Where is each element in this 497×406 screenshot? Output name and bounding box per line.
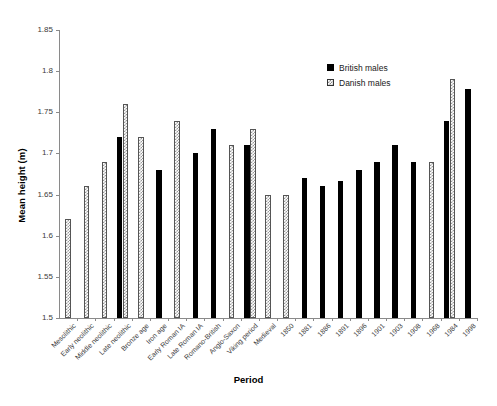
bar (102, 162, 108, 318)
legend-item-label: Danish males (339, 78, 391, 88)
x-axis-tick-mark (295, 318, 296, 321)
legend-item: British males (327, 60, 452, 75)
bar (211, 129, 217, 318)
bar (392, 145, 398, 318)
bar (320, 186, 326, 318)
x-axis-tick-mark (204, 318, 205, 321)
legend-swatch-icon (327, 79, 334, 86)
y-axis-tick-mark (56, 71, 59, 72)
y-axis-tick-mark (56, 277, 59, 278)
x-axis-tick-mark (459, 318, 460, 321)
bar (429, 162, 435, 318)
x-axis-tick-mark (132, 318, 133, 321)
y-axis-tick-label: 1.7 (21, 149, 53, 157)
y-axis-tick-mark (56, 30, 59, 31)
x-axis-tick-label: 1896 (352, 322, 368, 338)
y-axis-line (59, 30, 60, 318)
bar (302, 178, 308, 318)
x-axis-tick-mark (422, 318, 423, 321)
bar (138, 137, 144, 318)
y-axis-title-label: Mean height (m) (16, 148, 27, 222)
bar (283, 195, 289, 318)
x-axis-tick-mark (477, 318, 478, 321)
bar (338, 181, 344, 318)
chart-legend: British malesDanish males (327, 60, 452, 90)
y-axis-tick-mark (56, 195, 59, 196)
x-axis-tick-label: 1998 (461, 322, 477, 338)
bar (193, 153, 199, 318)
y-axis-tick-mark (56, 236, 59, 237)
bar (374, 162, 380, 318)
bar (250, 129, 256, 318)
x-axis-tick-label: 1891 (334, 322, 350, 338)
bar (465, 89, 471, 318)
y-axis-tick-label: 1.55 (21, 273, 53, 281)
x-axis-tick-label: 1850 (279, 322, 295, 338)
y-axis-tick-label: 1.6 (21, 232, 53, 240)
bar-chart: Mean height (m) 1.51.551.61.651.71.751.8… (0, 0, 497, 406)
bar (265, 195, 271, 318)
y-axis-tick-label: 1.5 (21, 314, 53, 322)
x-axis-tick-label: 1984 (443, 322, 459, 338)
bar (444, 121, 450, 318)
y-axis-tick-label: 1.65 (21, 191, 53, 199)
bar (229, 145, 235, 318)
legend-swatch-icon (327, 64, 334, 71)
x-axis-tick-mark (332, 318, 333, 321)
bar (411, 162, 417, 318)
x-axis-tick-label: 1903 (388, 322, 404, 338)
x-axis-tick-label: 1886 (316, 322, 332, 338)
x-axis-tick-mark (114, 318, 115, 321)
x-axis-tick-mark (95, 318, 96, 321)
legend-item-label: British males (339, 63, 388, 73)
x-axis-tick-label: 1901 (370, 322, 386, 338)
y-axis-title: Mean height (m) (10, 130, 32, 240)
x-axis-tick-mark (441, 318, 442, 321)
x-axis-tick-mark (77, 318, 78, 321)
x-axis-tick-mark (150, 318, 151, 321)
x-axis-tick-mark (368, 318, 369, 321)
bar (84, 186, 90, 318)
bar (450, 79, 456, 318)
y-axis-tick-mark (56, 153, 59, 154)
y-axis-tick-label: 1.85 (21, 26, 53, 34)
y-axis-tick-mark (56, 112, 59, 113)
x-axis-tick-mark (241, 318, 242, 321)
x-axis-tick-mark (223, 318, 224, 321)
x-axis-tick-mark (186, 318, 187, 321)
x-axis-tick-mark (404, 318, 405, 321)
x-axis-tick-mark (350, 318, 351, 321)
x-axis-line (59, 318, 477, 319)
bar (117, 137, 123, 318)
x-axis-tick-mark (386, 318, 387, 321)
x-axis-title: Period (0, 374, 497, 385)
x-axis-tick-mark (277, 318, 278, 321)
bar (356, 170, 362, 318)
bar (244, 145, 250, 318)
legend-item: Danish males (327, 75, 452, 90)
x-axis-tick-label: 1908 (406, 322, 422, 338)
y-axis-tick-mark (56, 318, 59, 319)
bar (123, 104, 129, 318)
y-axis-tick-label: 1.75 (21, 108, 53, 116)
y-axis-tick-label: 1.8 (21, 67, 53, 75)
bar (65, 219, 71, 318)
x-axis-tick-mark (259, 318, 260, 321)
x-axis-tick-mark (313, 318, 314, 321)
x-axis-tick-label: 1881 (297, 322, 313, 338)
bar (174, 121, 180, 318)
bar (156, 170, 162, 318)
x-axis-tick-label: 1968 (425, 322, 441, 338)
x-axis-tick-mark (168, 318, 169, 321)
